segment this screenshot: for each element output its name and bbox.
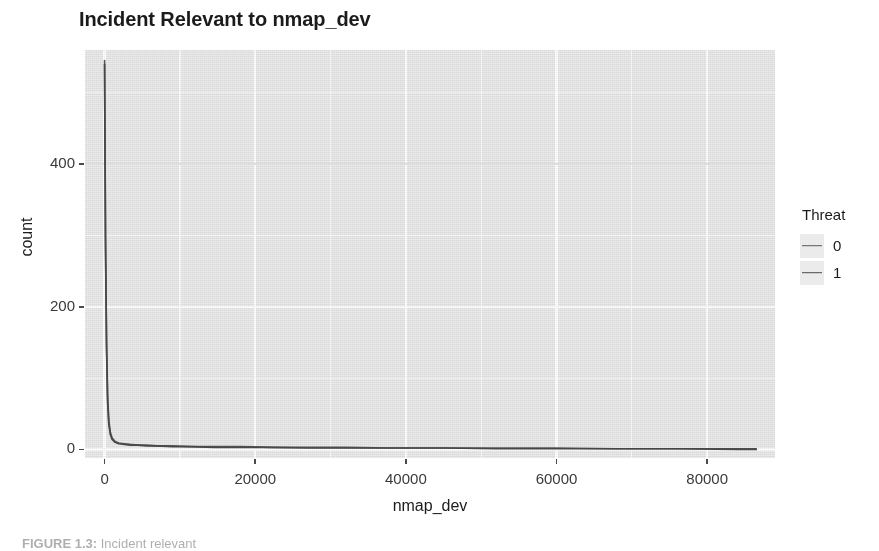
legend-item-label: 0 [833, 238, 841, 253]
legend-line-glyph [802, 272, 822, 274]
x-axis-tick-label: 40000 [346, 470, 466, 487]
x-axis-tick-mark [556, 459, 558, 464]
y-axis-tick-mark [79, 306, 84, 308]
legend-items: 01 [800, 232, 879, 286]
y-axis-tick-label: 0 [67, 439, 75, 456]
x-axis-tick-label: 80000 [647, 470, 767, 487]
y-axis-tick-mark [79, 163, 84, 165]
series-line-0 [105, 61, 757, 449]
y-axis-title: count [18, 192, 36, 282]
plot-panel [85, 50, 775, 458]
x-axis-tick-mark [706, 459, 708, 464]
series-line-1 [105, 64, 757, 449]
data-lines [85, 50, 775, 458]
x-axis-tick-label: 0 [45, 470, 165, 487]
x-axis-tick-mark [254, 459, 256, 464]
y-axis-tick-label: 200 [50, 297, 75, 314]
legend: Threat 01 [800, 206, 879, 286]
figure-caption: FIGURE 1.3: Incident relevant [22, 536, 196, 551]
caption-body: Incident relevant [97, 536, 196, 551]
legend-key-swatch [800, 261, 824, 285]
y-axis-tick-label: 400 [50, 154, 75, 171]
caption-prefix: FIGURE 1.3: [22, 536, 97, 551]
x-axis-tick-mark [104, 459, 106, 464]
legend-item-0[interactable]: 0 [800, 232, 879, 259]
legend-item-1[interactable]: 1 [800, 259, 879, 286]
y-axis-tick-mark [79, 449, 84, 451]
x-axis-title: nmap_dev [85, 497, 775, 515]
legend-title: Threat [802, 206, 879, 223]
legend-key-swatch [800, 234, 824, 258]
legend-item-label: 1 [833, 265, 841, 280]
figure-container: Incident Relevant to nmap_dev 0200400 co… [0, 0, 879, 551]
x-axis-tick-label: 60000 [497, 470, 617, 487]
legend-line-glyph [802, 245, 822, 247]
x-axis-tick-mark [405, 459, 407, 464]
x-axis-tick-label: 20000 [195, 470, 315, 487]
chart-title: Incident Relevant to nmap_dev [79, 8, 371, 31]
